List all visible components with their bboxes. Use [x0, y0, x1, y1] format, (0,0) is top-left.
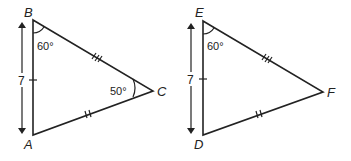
angle-c-value: 50°	[110, 85, 127, 97]
vertex-b-label: B	[24, 5, 33, 20]
tick-marks-df	[256, 110, 262, 118]
angle-b-arc	[33, 27, 44, 33]
side-ab-length: 7	[18, 74, 25, 88]
vertex-a-label: A	[23, 137, 33, 152]
triangle-def-outline	[203, 21, 323, 135]
triangle-def: 7 E F D 60°	[187, 5, 336, 152]
diagram-canvas: 7 B C A 60° 50° 7 E F D 60°	[0, 0, 351, 161]
angle-c-arc	[133, 79, 135, 97]
vertex-c-label: C	[157, 84, 167, 99]
angle-e-arc	[203, 28, 214, 34]
triangle-abc-outline	[33, 20, 153, 135]
triangle-abc: 7 B C A 60° 50°	[18, 5, 167, 152]
vertex-f-label: F	[327, 85, 336, 100]
angle-e-value: 60°	[207, 40, 224, 52]
side-de-length: 7	[187, 73, 194, 87]
vertex-d-label: D	[194, 137, 203, 152]
vertex-e-label: E	[195, 5, 204, 20]
angle-b-value: 60°	[37, 40, 54, 52]
